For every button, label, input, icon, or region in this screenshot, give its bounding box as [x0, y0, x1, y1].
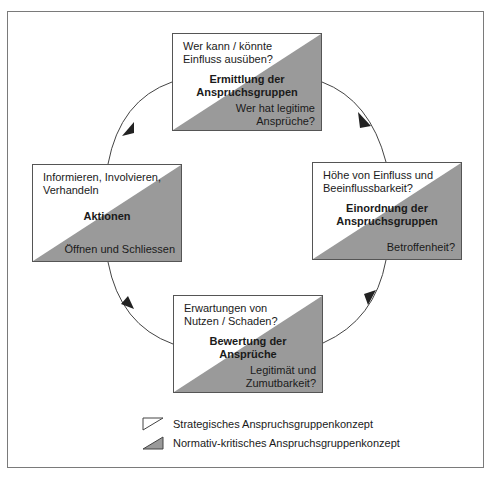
legend-item-strategisch: Strategisches Anspruchsgruppenkonzept [142, 415, 373, 433]
question-bottom: Öffnen und Schliessen [65, 243, 175, 256]
question-top: Wer kann / könnte Einfluss ausüben? [183, 40, 273, 66]
question-top: Informieren, Involvieren, Verhandeln [43, 171, 161, 197]
arc-top-to-right [322, 82, 386, 162]
box-ermittlung: Wer kann / könnte Einfluss ausüben? Ermi… [172, 33, 322, 131]
legend-item-normativ: Normativ-kritisches Anspruchsgruppenkonz… [142, 434, 400, 452]
box-aktionen: Informieren, Involvieren, Verhandeln Akt… [32, 164, 182, 262]
box-title: Ermittlung der Anspruchsgruppen [173, 73, 321, 99]
box-title: Aktionen [33, 210, 181, 223]
box-einordnung: Höhe von Einfluss und Beeinflussbarkeit?… [312, 162, 462, 260]
question-top: Erwartungen von Nutzen / Schaden? [184, 302, 278, 328]
question-bottom: Legitimät und Zumutbarkeit? [246, 364, 316, 390]
question-bottom: Wer hat legitime Ansprüche? [236, 102, 315, 128]
arc-left-to-top [108, 82, 172, 164]
arrow-icon [121, 296, 134, 309]
arc-bottom-to-left [108, 262, 173, 344]
box-bewertung: Erwartungen von Nutzen / Schaden? Bewert… [173, 295, 323, 393]
gray-triangle-icon [142, 436, 164, 450]
question-bottom: Betroffenheit? [387, 241, 455, 254]
box-title: Bewertung der Ansprüche [174, 335, 322, 361]
question-top: Höhe von Einfluss und Beeinflussbarkeit? [323, 169, 433, 195]
white-triangle-icon [142, 417, 164, 431]
box-title: Einordnung der Anspruchsgruppen [313, 202, 461, 228]
arrow-icon [122, 122, 134, 136]
arc-right-to-bottom [323, 260, 386, 343]
